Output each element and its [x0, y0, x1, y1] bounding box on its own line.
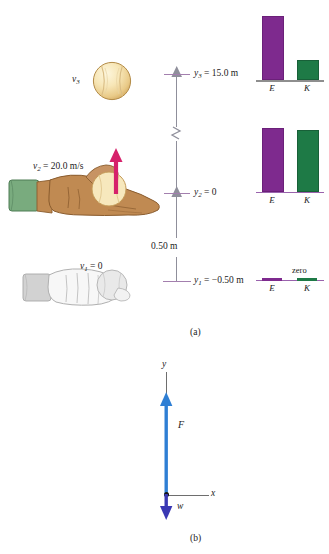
chart-y2-label-E: E	[262, 195, 282, 205]
velocity-v2-value: = 20.0 m/s	[41, 161, 84, 171]
velocity-arrow-up	[108, 148, 124, 194]
energy-chart-y3: E K	[256, 18, 324, 92]
fbd-x-axis-label: x	[211, 489, 215, 499]
chart-y2-baseline	[256, 192, 324, 193]
chart-y2-bar-E	[262, 128, 284, 192]
velocity-v3-label: v3	[72, 75, 80, 86]
chart-y3-baseline	[256, 80, 324, 82]
axis-segment-middle	[176, 141, 177, 191]
chart-y3-plot	[256, 18, 324, 80]
axis-break-marker	[170, 126, 184, 142]
chart-y1-zero-label: zero	[292, 265, 307, 275]
chart-y1-bar-K	[297, 278, 317, 281]
velocity-v1-label: v1 = 0	[80, 262, 103, 273]
axis-y2-value: = 0	[202, 187, 217, 197]
axis-arrowhead-y3	[170, 66, 184, 78]
axis-y3-value: = 15.0 m	[202, 68, 239, 78]
hand-throwing	[8, 163, 168, 225]
hand-illustration-icon	[8, 163, 168, 225]
weight-arrow-down-icon	[159, 494, 175, 520]
physics-figure: v3 v2	[0, 0, 329, 554]
chart-y3-bar-K	[297, 60, 319, 80]
energy-chart-y2: E K	[256, 130, 324, 204]
panel-a-caption: (a)	[190, 327, 201, 337]
chart-y3-label-E: E	[262, 83, 282, 93]
axis-label-distance: 0.50 m	[151, 241, 177, 251]
fbd-force-symbol: F	[178, 419, 184, 430]
chart-y2-label-K: K	[297, 195, 317, 205]
velocity-v3-subscript: 3	[76, 78, 80, 86]
axis-label-y2: y2 = 0	[194, 187, 217, 199]
panel-b-caption: (b)	[190, 533, 201, 543]
axis-segment-upper	[176, 72, 177, 127]
velocity-arrow-icon	[108, 148, 124, 194]
arrowhead-up-icon	[170, 66, 184, 78]
fbd-y-axis-label: y	[162, 360, 166, 370]
baseball-top	[92, 61, 132, 101]
velocity-v1-value: = 0	[88, 261, 103, 271]
fbd-weight-label: w	[177, 502, 183, 512]
axis-tick-y1	[163, 281, 191, 282]
axis-segment-bracket	[176, 257, 177, 282]
fbd-y-symbol: y	[162, 359, 166, 369]
energy-chart-y1: zero E K	[256, 265, 324, 297]
chart-y1-label-K: K	[297, 283, 317, 293]
chart-y2-bar-K	[297, 130, 319, 192]
axis-break-icon	[170, 126, 184, 142]
fbd-x-symbol: x	[211, 488, 215, 498]
axis-segment-lower	[176, 194, 177, 238]
chart-y3-bar-E	[262, 16, 284, 80]
fbd-force-arrow	[159, 392, 175, 496]
fbd-force-label: F	[178, 420, 184, 430]
chart-y3-label-K: K	[297, 83, 317, 93]
force-arrow-up-icon	[159, 392, 175, 496]
axis-label-y1: y1 = −0.50 m	[194, 275, 244, 287]
chart-y1-label-E: E	[262, 283, 282, 293]
fbd-weight-symbol: w	[177, 501, 183, 511]
axis-label-y3: y3 = 15.0 m	[194, 68, 238, 80]
fbd-weight-arrow	[159, 494, 175, 520]
velocity-v2-label: v2 = 20.0 m/s	[33, 162, 84, 173]
baseball-icon	[92, 61, 132, 101]
chart-y1-bar-E	[262, 278, 282, 281]
axis-tick-y3	[164, 74, 190, 75]
axis-y1-value: = −0.50 m	[202, 275, 244, 285]
chart-y2-plot	[256, 130, 324, 192]
